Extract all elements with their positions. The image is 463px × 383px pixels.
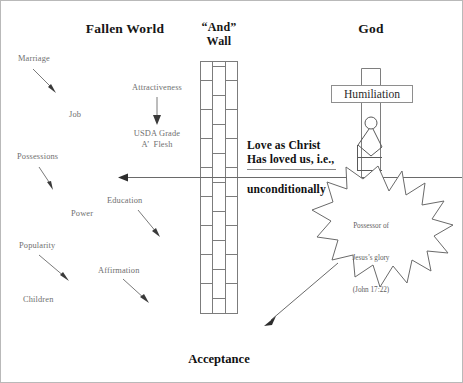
arrow-attractiveness (153, 97, 161, 125)
heading-and-wall-line1: “And” (194, 20, 244, 34)
glory-caption-line-2: Jesus’s glory (339, 253, 403, 264)
figure-body-left (358, 145, 371, 156)
fallen-world-arrows (33, 69, 161, 303)
world-item-attractiveness: Attractiveness (125, 83, 189, 93)
heading-fallen-world: Fallen World (65, 21, 185, 37)
outcome-label: Acceptance Significance Security (164, 320, 274, 383)
world-item-children: Children (23, 295, 54, 305)
glory-to-outcome-arrow (264, 263, 338, 326)
arrow-affirmation (123, 279, 149, 303)
heading-god: God (341, 21, 401, 37)
glory-caption-line-3: (John 17:22) (339, 285, 403, 296)
humiliation-plaque: Humiliation (331, 85, 413, 103)
heading-and-wall-line2: Wall (194, 34, 244, 48)
statement-line-3-unconditionally: unconditionally (247, 183, 326, 197)
world-item-marriage: Marriage (18, 54, 50, 64)
wall-outline (201, 62, 238, 314)
arrow-marriage (33, 69, 56, 93)
figure-arm-left (358, 129, 369, 145)
wall-course-lines-left (201, 81, 213, 284)
world-item-job: Job (69, 110, 81, 120)
love-arrow-head (118, 174, 128, 182)
crucified-figure (357, 117, 382, 171)
world-item-education: Education (107, 196, 142, 206)
outcome-line-acceptance: Acceptance (164, 352, 274, 368)
world-item-power: Power (71, 209, 93, 219)
wall-course-lines-middle (213, 67, 226, 299)
and-wall (201, 62, 238, 314)
humiliation-plaque-label: Humiliation (344, 88, 400, 101)
glory-caption: Possessor of Jesus’s glory (John 17:22) (339, 199, 403, 318)
world-item-usda-flesh: A’ Flesh (125, 140, 189, 150)
wall-course-lines-right (226, 81, 238, 284)
world-item-usda-grade: USDA Grade (125, 129, 189, 139)
world-item-affirmation: Affirmation (98, 266, 140, 276)
unconditional-love-arrow (118, 174, 463, 182)
world-item-popularity: Popularity (19, 241, 55, 251)
world-item-possessions: Possessions (17, 152, 58, 162)
glory-caption-line-1: Possessor of (339, 221, 403, 232)
statement-line-2: Has loved us, i.e., (247, 153, 334, 167)
arrow-education (138, 210, 160, 237)
diagram-canvas: Fallen World “And” Wall God Marriage Job… (0, 0, 463, 383)
figure-head (365, 117, 377, 129)
arrow-popularity (39, 255, 69, 281)
statement-line-1: Love as Christ (247, 139, 321, 153)
arrow-possessions (39, 167, 53, 190)
